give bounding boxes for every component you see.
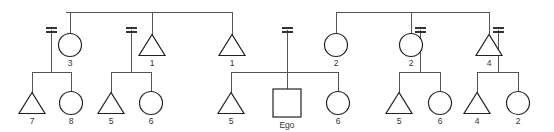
person-shapes <box>19 34 530 118</box>
person-label: 2 <box>334 58 339 68</box>
ego-label: Ego <box>279 120 294 130</box>
person-label: 1 <box>230 58 235 68</box>
person-label: 7 <box>30 116 35 126</box>
person-circle-female[interactable] <box>140 92 163 115</box>
person-triangle-male[interactable] <box>386 93 412 114</box>
person-label: 6 <box>336 116 341 126</box>
pedigree-canvas: 31122478565Ego65642 <box>0 0 554 132</box>
kinship-pedigree-diagram: 31122478565Ego65642 <box>0 0 554 132</box>
person-triangle-male[interactable] <box>19 93 45 114</box>
person-label: 2 <box>516 116 521 126</box>
person-triangle-male[interactable] <box>464 93 490 114</box>
person-label: 8 <box>69 116 74 126</box>
person-label: 5 <box>109 116 114 126</box>
person-label: 5 <box>229 116 234 126</box>
person-circle-female[interactable] <box>59 34 82 57</box>
person-label: 3 <box>68 58 73 68</box>
person-circle-female[interactable] <box>400 34 423 57</box>
person-label: 6 <box>438 116 443 126</box>
person-label: 4 <box>475 116 480 126</box>
person-label: 2 <box>409 58 414 68</box>
person-circle-female[interactable] <box>327 92 350 115</box>
person-circle-female[interactable] <box>60 92 83 115</box>
person-triangle-male[interactable] <box>139 35 165 56</box>
person-triangle-male[interactable] <box>98 93 124 114</box>
person-square-ego[interactable] <box>273 89 301 117</box>
person-triangle-male[interactable] <box>219 35 245 56</box>
marriage-symbols <box>46 28 504 32</box>
person-circle-female[interactable] <box>429 92 452 115</box>
person-circle-female[interactable] <box>325 34 348 57</box>
person-circle-female[interactable] <box>507 92 530 115</box>
connector-lines <box>32 12 518 93</box>
person-triangle-male[interactable] <box>218 93 244 114</box>
person-label: 1 <box>150 58 155 68</box>
person-label: 6 <box>149 116 154 126</box>
person-label: 5 <box>397 116 402 126</box>
person-label: 4 <box>487 58 492 68</box>
